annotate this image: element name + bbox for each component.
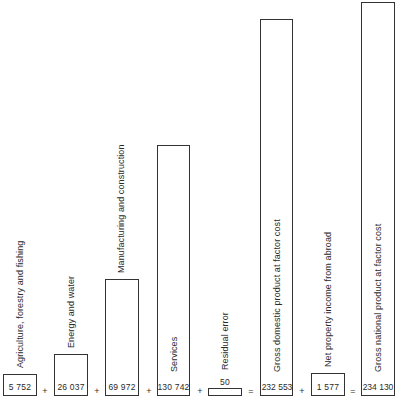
label-residual-error: Residual error [220, 312, 230, 370]
value-energy: 26 037 [54, 382, 88, 392]
label-agriculture: Agriculture, forestry and fishing [15, 241, 25, 368]
operator-plus: + [40, 386, 50, 396]
value-residual-error: 50 [208, 377, 242, 387]
value-agriculture: 5 752 [3, 382, 37, 392]
value-net-property-income: 1 577 [311, 382, 345, 392]
bar-manufacturing [105, 279, 139, 396]
operator-plus: + [195, 386, 205, 396]
label-energy: Energy and water [66, 276, 76, 348]
label-gnp: Gross national product at factor cost [373, 224, 383, 372]
operator-plus: + [92, 386, 102, 396]
operator-plus: + [144, 386, 154, 396]
label-services: Services [169, 337, 179, 372]
operator-equals: = [348, 386, 358, 396]
label-gdp: Gross domestic product at factor cost [272, 219, 282, 372]
value-gnp: 234 130 [361, 382, 395, 392]
value-gdp: 232 553 [260, 382, 294, 392]
value-services: 130 742 [157, 382, 190, 392]
value-manufacturing: 69 972 [105, 382, 139, 392]
operator-equals: = [246, 386, 256, 396]
label-manufacturing: Manufacturing and construction [116, 144, 126, 273]
bar-residual-error [208, 388, 242, 396]
operator-plus: + [297, 386, 307, 396]
label-net-property-income: Net property income from abroad [323, 232, 333, 367]
